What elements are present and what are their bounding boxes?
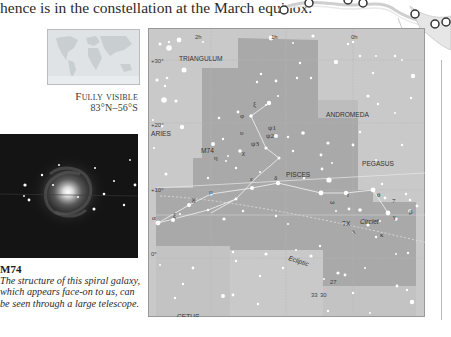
star-beta: β [409, 208, 413, 216]
world-visibility-map [47, 29, 140, 85]
star-gamma: γ [392, 213, 396, 221]
star-27: 27 [330, 279, 337, 285]
star-omega: ω [330, 198, 335, 206]
star-lambda: λ [352, 228, 356, 236]
label-cetus: CETUS [177, 313, 200, 317]
ra-tick-1h: 1h [271, 34, 278, 40]
label-circlet: Circlet [360, 218, 380, 225]
star-phi: φ [240, 112, 244, 120]
label-tx: TX [342, 220, 351, 227]
star-alpha: α [152, 214, 156, 222]
star-upsilon: υ [240, 129, 244, 137]
visibility-range: 83°N–56°S [75, 102, 138, 113]
star-7: 7 [392, 197, 396, 205]
label-pisces: PISCES [286, 171, 311, 178]
intro-text: hence is in the constellation at the Mar… [0, 0, 312, 16]
visibility-label: Fully visible 83°N–56°S [75, 91, 138, 113]
star-30: 30 [320, 292, 327, 298]
dec-tick-20: +20° [151, 122, 164, 128]
star-mu: μ [209, 188, 213, 196]
label-andromeda: ANDROMEDA [326, 111, 369, 118]
page-edge-divider [441, 60, 442, 320]
label-triangulum: TRIANGULUM [179, 55, 223, 62]
star-xi-and: ξ [253, 100, 256, 108]
star-iota: ι [347, 191, 349, 199]
star-epsilon: ε [250, 175, 253, 183]
star-eta: η [214, 154, 218, 162]
caption-title: M74 [0, 263, 140, 275]
dec-tick-0: 0° [151, 251, 157, 257]
label-aries: ARIES [151, 130, 171, 137]
label-m74: M74 [201, 147, 214, 154]
star-xi-psc: ξ [173, 211, 176, 219]
ra-tick-2h: 2h [195, 34, 202, 40]
visibility-title: Fully visible [75, 91, 138, 102]
dec-tick-30: +30° [151, 58, 164, 64]
m74-galaxy-photo [0, 134, 138, 258]
star-psi2: ψ2 [266, 132, 274, 140]
photo-caption: M74 The structure of this spiral galaxy,… [0, 263, 140, 309]
star-33: 33 [311, 292, 318, 298]
caption-body: The structure of this spiral galaxy, whi… [0, 275, 140, 309]
star-kappa: κ [380, 231, 384, 239]
star-chart: 2h 1h 0h +30° +20° +10° 0° TRIANGULUM AN… [148, 28, 425, 317]
dec-tick-10: +10° [151, 187, 164, 193]
star-nu: ν [192, 195, 195, 203]
label-pegasus: PEGASUS [362, 160, 394, 167]
star-psi3: ψ3 [251, 140, 259, 148]
ra-tick-0h: 0h [351, 34, 358, 40]
star-psi1: ψ1 [268, 124, 276, 132]
